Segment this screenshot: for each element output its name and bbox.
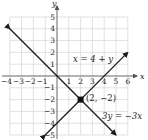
svg-text:3: 3 [90, 77, 95, 86]
svg-text:−1: −1 [44, 83, 55, 92]
svg-text:−2: −2 [44, 95, 55, 104]
svg-text:2: 2 [78, 77, 83, 86]
svg-text:−4: −4 [1, 77, 12, 86]
svg-text:−2: −2 [25, 77, 36, 86]
svg-text:−3: −3 [13, 77, 24, 86]
svg-text:6: 6 [125, 77, 130, 86]
svg-text:2: 2 [50, 48, 55, 57]
chart-svg: x y −4 −3 −2 −1 1 2 3 4 5 6 5 4 3 2 1 −1… [0, 0, 148, 140]
equation-label-2: 3y = −3x [102, 111, 142, 121]
svg-text:1: 1 [66, 77, 71, 86]
y-axis-label: y [51, 0, 57, 8]
svg-text:5: 5 [114, 77, 119, 86]
svg-text:5: 5 [50, 13, 55, 22]
intersection-point-label: (2, −2) [86, 93, 116, 103]
svg-text:−3: −3 [44, 107, 55, 116]
intersection-point-marker [78, 97, 84, 103]
svg-text:1: 1 [50, 60, 55, 69]
svg-text:3: 3 [50, 36, 55, 45]
svg-text:4: 4 [50, 24, 55, 33]
x-axis-label: x [140, 72, 145, 81]
equation-label-1: x = 4 + y [73, 54, 113, 64]
